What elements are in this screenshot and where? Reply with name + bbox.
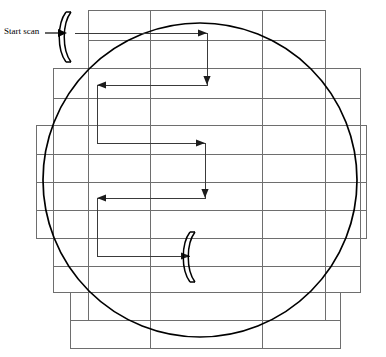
diagram-canvas: Start scan <box>0 0 386 357</box>
arrowhead-right <box>198 29 207 36</box>
grid-row <box>70 320 340 348</box>
arrowhead-right <box>196 139 205 146</box>
arrowhead-down <box>203 76 210 85</box>
arrowhead-down <box>201 189 208 198</box>
scan-diagram-svg <box>0 0 386 357</box>
start-lens-outer-arc <box>64 12 71 62</box>
arrowhead-left <box>97 81 106 88</box>
grid-row <box>36 182 366 210</box>
scan-path <box>75 33 207 256</box>
start-lens-icon <box>59 12 71 62</box>
grid-row <box>53 98 360 125</box>
grid-row <box>53 238 360 266</box>
start-scan-arrowhead <box>58 29 67 37</box>
scan-path-arrowheads <box>97 29 211 259</box>
wafer-circle <box>43 23 357 337</box>
grid-row <box>36 154 366 182</box>
arrowhead-left <box>97 194 106 201</box>
grid-row <box>36 125 366 154</box>
start-scan-label: Start scan <box>4 26 39 36</box>
grid-row <box>70 292 340 320</box>
grid-rows <box>36 10 366 348</box>
scan-path-polyline <box>75 33 207 256</box>
end-lens-outer-arc <box>188 232 195 282</box>
grid-row <box>36 210 366 238</box>
